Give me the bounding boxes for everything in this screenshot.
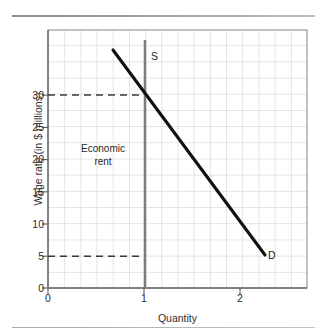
x-tick-label-1: 1	[129, 292, 159, 304]
x-tick-label-2: 2	[225, 292, 255, 304]
economic-rent-line-2: rent	[60, 156, 146, 169]
economics-wage-chart-figure: 30 25 20 15 10 5 0 0 1 2 Wage rate (in $…	[0, 0, 327, 335]
x-tick-label-0: 0	[33, 292, 63, 304]
demand-curve-label: D	[268, 249, 276, 261]
y-axis-title: Wage rate (in $ millions)	[32, 59, 44, 239]
economic-rent-annotation: Economic rent	[60, 143, 146, 168]
x-axis-title: Quantity	[48, 312, 307, 324]
supply-curve-label: S	[151, 50, 158, 62]
plot-canvas	[0, 0, 327, 335]
economic-rent-line-1: Economic	[60, 143, 146, 156]
y-tick-label-5: 5	[2, 250, 44, 262]
